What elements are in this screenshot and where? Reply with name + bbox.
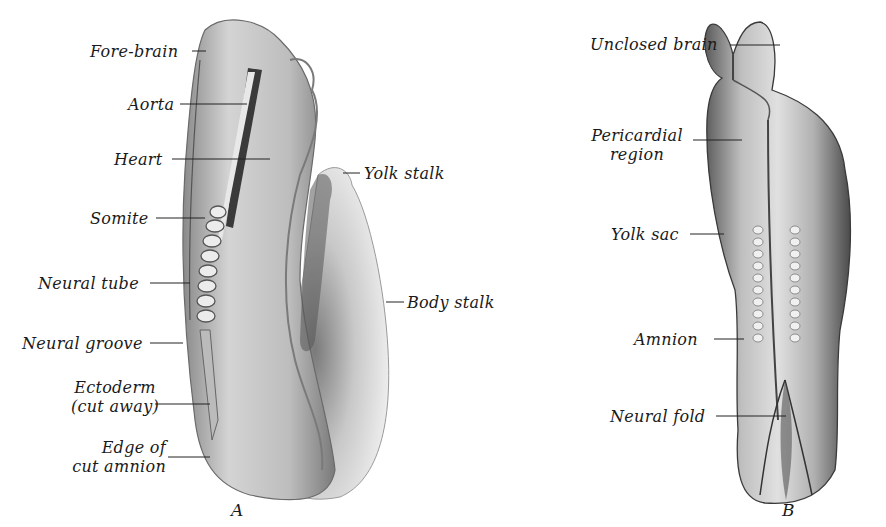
label-pericardial-region: Pericardial region (583, 126, 691, 164)
label-neural-fold: Neural fold (610, 407, 705, 426)
label-yolk-stalk: Yolk stalk (364, 164, 445, 183)
label-pericardial-region-line2: region (583, 145, 691, 164)
label-ectoderm: Ectoderm (cut away) (70, 378, 160, 416)
label-amnion: Amnion (634, 330, 698, 349)
label-edge-of-cut-amnion-line1: Edge of (60, 438, 166, 457)
label-yolk-sac: Yolk sac (611, 225, 679, 244)
label-edge-of-cut-amnion-line2: cut amnion (60, 457, 166, 476)
label-ectoderm-line2: (cut away) (70, 397, 160, 416)
panel-a-caption: A (231, 500, 243, 520)
panel-a-drawing (183, 20, 389, 500)
label-somite: Somite (90, 209, 149, 228)
label-body-stalk: Body stalk (407, 293, 495, 312)
label-neural-groove: Neural groove (22, 334, 143, 353)
label-aorta: Aorta (128, 95, 174, 114)
panel-b-caption: B (782, 500, 795, 520)
label-ectoderm-line1: Ectoderm (70, 378, 160, 397)
label-pericardial-region-line1: Pericardial (583, 126, 691, 145)
label-unclosed-brain: Unclosed brain (590, 35, 718, 54)
label-edge-of-cut-amnion: Edge of cut amnion (60, 438, 166, 476)
panel-b-drawing (705, 22, 851, 503)
label-fore-brain: Fore-brain (90, 42, 178, 61)
label-heart: Heart (114, 150, 163, 169)
label-neural-tube: Neural tube (38, 274, 139, 293)
